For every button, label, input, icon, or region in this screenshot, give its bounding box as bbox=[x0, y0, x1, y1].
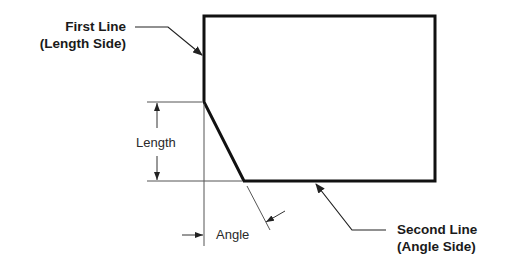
chamfered-shape-outline bbox=[204, 16, 435, 181]
angle-arrow-right bbox=[266, 211, 285, 222]
angle-label: Angle bbox=[216, 227, 249, 242]
chamfer-diagram: First Line (Length Side) Second Line (An… bbox=[0, 0, 513, 270]
angle-extension-line bbox=[247, 186, 270, 230]
length-label: Length bbox=[136, 135, 176, 150]
diagram-svg: First Line (Length Side) Second Line (An… bbox=[0, 0, 513, 270]
first-line-sublabel: (Length Side) bbox=[40, 36, 126, 51]
second-line-leader bbox=[316, 184, 386, 230]
second-line-label: Second Line bbox=[397, 222, 478, 237]
first-line-leader bbox=[135, 27, 202, 55]
first-line-label: First Line bbox=[65, 19, 126, 34]
second-line-sublabel: (Angle Side) bbox=[397, 239, 476, 254]
